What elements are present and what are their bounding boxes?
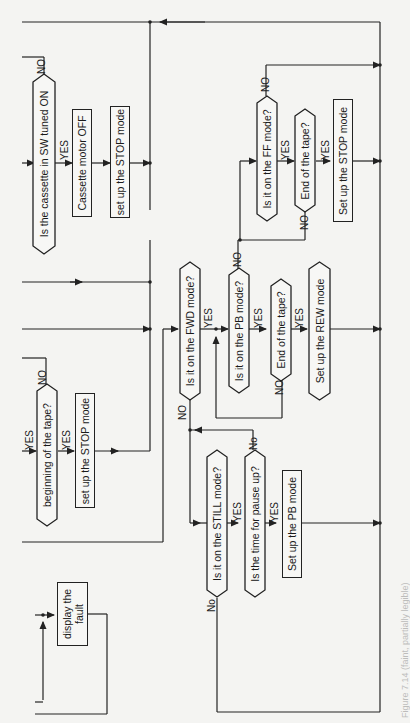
process-stop-mode-2: set up the STOP mode (75, 393, 95, 508)
edge-label-yes: YES (24, 430, 35, 450)
edge-label-yes: YES (203, 308, 214, 328)
process-text: Set up the PB mode (286, 477, 298, 571)
process-display-fault: display the fault (57, 582, 88, 646)
process-text: set up the STOP mode (114, 109, 126, 215)
edge-label-no: NO (299, 215, 310, 230)
decision-text: End of the tape? (299, 122, 311, 199)
decision-fwd-mode: Is it on the FWD mode? (180, 262, 200, 400)
decision-pause-time: Is the time for pause up? (245, 450, 265, 597)
decision-still-mode: Is it on the STILL mode? (207, 450, 227, 597)
edge-label-no: NO (274, 380, 285, 395)
edge-label-yes: YES (253, 308, 264, 328)
process-cassette-motor-off: Cassette motor OFF (72, 109, 92, 217)
edge-label-no: NO (232, 252, 243, 267)
process-text: Set up the STOP mode (337, 106, 349, 214)
edge-label-yes: YES (61, 430, 72, 450)
process-text: Cassette motor OFF (76, 115, 88, 210)
edge-label-no: NO (177, 405, 188, 420)
process-text: Set up the REW mode (314, 279, 326, 383)
edge-label-no: NO (260, 77, 271, 92)
process-stop-mode-1: set up the STOP mode (110, 106, 130, 218)
decision-end-of-tape-1: End of the tape? (271, 279, 291, 381)
process-stop-mode-3: Set up the STOP mode (333, 99, 353, 222)
decision-ff-mode: Is it on the FF mode? (257, 96, 277, 221)
process-rew-mode: Set up the REW mode (309, 262, 330, 400)
edge-label-no: No (206, 599, 217, 612)
edge-label-no: No (248, 437, 259, 450)
decision-text: beginning of the tape? (41, 403, 53, 507)
decision-text: Is it on the FF mode? (261, 109, 273, 208)
decision-end-of-tape-2: End of the tape? (295, 109, 315, 212)
figure-caption: Figure 7.14 (faint, partially legible) (400, 582, 410, 718)
edge-label-no: NO (37, 370, 48, 385)
flowchart-canvas: Is the cassette in SW tuned ON Cassette … (0, 0, 410, 723)
decision-text: Is it on the FWD mode? (184, 276, 196, 386)
edge-label-yes: YES (280, 140, 291, 160)
edge-label-yes: YES (320, 140, 331, 160)
decision-text: Is the cassette in SW tuned ON (38, 91, 50, 237)
decision-pb-mode: Is it on the PB mode? (229, 268, 249, 393)
decision-text: End of the tape? (275, 291, 287, 368)
decision-text: Is the time for pause up? (249, 466, 261, 582)
edge-label-yes: YES (232, 502, 243, 522)
edge-label-no: NO (36, 59, 47, 74)
decision-cassette-sw: Is the cassette in SW tuned ON (33, 74, 55, 254)
edge-label-yes: YES (269, 502, 280, 522)
process-text: set up the STOP mode (79, 397, 91, 503)
edge-label-yes: YES (59, 140, 70, 160)
process-pb-mode: Set up the PB mode (282, 470, 302, 578)
edge-label-yes: YES (294, 308, 305, 328)
decision-text: Is it on the STILL mode? (211, 466, 223, 580)
decision-text: Is it on the PB mode? (233, 280, 245, 380)
process-text: display the fault (61, 586, 85, 642)
decision-beginning-of-tape: beginning of the tape? (37, 384, 57, 526)
